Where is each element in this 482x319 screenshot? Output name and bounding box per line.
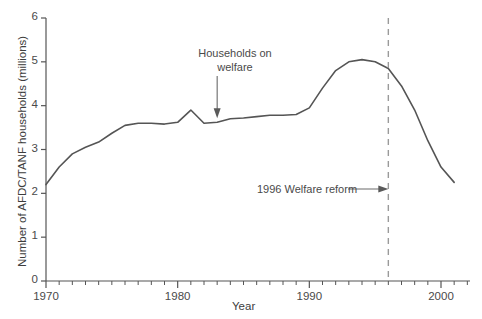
- y-axis-tick-label: 0: [24, 273, 38, 285]
- x-axis-tick-label: 2000: [421, 290, 461, 302]
- x-axis-tick-label: 1970: [26, 290, 66, 302]
- x-axis-title: Year: [232, 300, 255, 312]
- households-on-welfare-annotation: Households on welfare: [180, 46, 290, 74]
- x-axis-ticks: [46, 281, 467, 288]
- y-axis-tick-label: 6: [24, 10, 38, 22]
- households-annotation-arrow-head: [214, 108, 221, 118]
- households-annotation-line2: welfare: [180, 60, 290, 74]
- welfare-reform-annotation: 1996 Welfare reform: [257, 182, 357, 196]
- y-axis-ticks: [41, 18, 46, 281]
- x-axis-tick-label: 1980: [158, 290, 198, 302]
- x-axis-tick-label: 1990: [289, 290, 329, 302]
- households-annotation-line1: Households on: [180, 46, 290, 60]
- series-line-households-on-welfare: [46, 60, 454, 185]
- y-axis-title: Number of AFDC/TANF households (millions…: [16, 37, 28, 267]
- chart-figure: 0123456 1970198019902000 Number of AFDC/…: [0, 0, 482, 319]
- data-series-group: [46, 60, 454, 185]
- welfare-reform-annotation-arrow-head: [378, 186, 388, 193]
